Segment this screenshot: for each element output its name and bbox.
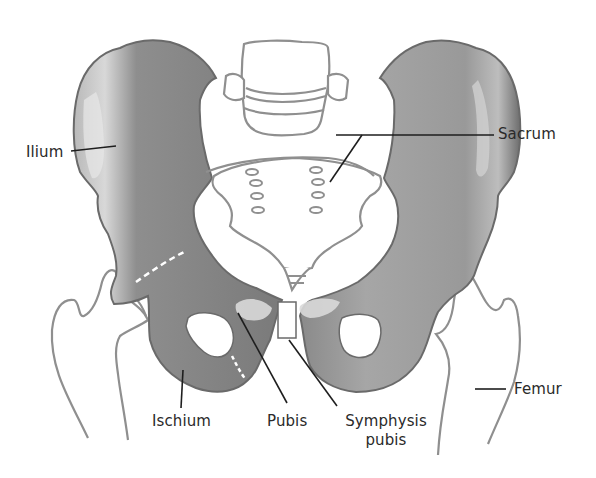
sacrum-and-vertebra [206,41,381,290]
label-pubis: Pubis [267,412,307,431]
label-symphysis-line1: Symphysis [338,412,434,431]
pelvis-diagram [0,0,596,478]
label-femur: Femur [514,380,562,399]
label-sacrum: Sacrum [498,125,556,144]
symphysis-pubis-shape [278,302,296,338]
label-ischium: Ischium [152,412,211,431]
label-ilium: Ilium [26,143,63,162]
label-symphysis-pubis: Symphysis pubis [338,412,434,450]
label-symphysis-line2: pubis [338,431,434,450]
